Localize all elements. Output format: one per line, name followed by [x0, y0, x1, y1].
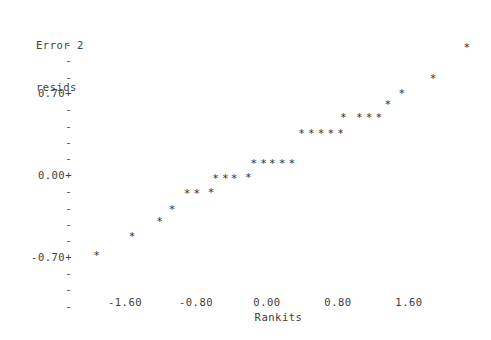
- data-point-marker: *: [193, 189, 200, 198]
- data-point-marker: *: [231, 174, 238, 183]
- data-point-marker: *: [208, 188, 215, 197]
- x-axis-title: Rankits: [0, 311, 491, 323]
- y-axis-tick-mark: -: [0, 220, 72, 228]
- y-axis-tick-mark: -: [0, 73, 72, 81]
- data-point-marker: *: [93, 251, 100, 260]
- minitab-dotplot-chart: Error 2 resids ---0.70+----0.00+-----0.7…: [0, 0, 491, 340]
- data-point-marker: *: [245, 173, 252, 182]
- y-axis-tick-mark: -: [0, 302, 72, 310]
- data-point-marker: *: [129, 232, 136, 241]
- data-point-marker: *: [327, 129, 334, 138]
- x-axis-tick-label: 0.80: [316, 296, 360, 308]
- data-point-marker: *: [184, 189, 191, 198]
- y-axis-tick-mark: -: [0, 122, 72, 130]
- data-point-marker: *: [340, 113, 347, 122]
- data-point-marker: *: [308, 129, 315, 138]
- x-axis-tick-label: 0.00: [245, 296, 289, 308]
- data-point-marker: *: [279, 159, 286, 168]
- x-axis-tick-label: -1.60: [103, 296, 147, 308]
- y-axis-tick-mark: -: [0, 56, 72, 64]
- y-axis-tick-label: -0.70+: [0, 253, 72, 261]
- data-point-marker: *: [375, 113, 382, 122]
- y-axis-tick-mark: -: [0, 269, 72, 277]
- y-axis-tick-mark: -: [0, 187, 72, 195]
- x-axis-line: +---------+---------+---------+---------…: [68, 287, 480, 288]
- data-point-marker: *: [288, 159, 295, 168]
- data-point-marker: *: [429, 74, 436, 83]
- y-axis-tick-mark: -: [0, 40, 72, 48]
- y-axis-tick-mark: -: [0, 138, 72, 146]
- data-point-marker: *: [398, 89, 405, 98]
- y-axis-tick-mark: -: [0, 204, 72, 212]
- x-axis-tick-label: -0.80: [174, 296, 218, 308]
- data-point-marker: *: [260, 159, 267, 168]
- data-point-marker: *: [269, 159, 276, 168]
- y-axis-tick-labels: ---0.70+----0.00+-----0.70+---: [0, 0, 72, 340]
- y-axis-tick-label: 0.00+: [0, 171, 72, 179]
- data-point-marker: *: [156, 217, 163, 226]
- data-point-marker: *: [298, 129, 305, 138]
- data-point-marker: *: [169, 205, 176, 214]
- data-point-marker: *: [337, 129, 344, 138]
- y-axis-tick-mark: -: [0, 285, 72, 293]
- y-axis-tick-mark: -: [0, 154, 72, 162]
- y-axis-tick-label: 0.70+: [0, 89, 72, 97]
- data-point-marker: *: [366, 113, 373, 122]
- data-point-marker: *: [384, 100, 391, 109]
- x-axis-tick-label: 1.60: [387, 296, 431, 308]
- data-point-marker: *: [318, 129, 325, 138]
- data-point-marker: *: [356, 113, 363, 122]
- data-point-marker: *: [463, 43, 470, 52]
- data-point-marker: *: [250, 159, 257, 168]
- data-point-marker: *: [212, 174, 219, 183]
- data-point-marker: *: [222, 174, 229, 183]
- y-axis-tick-mark: -: [0, 236, 72, 244]
- y-axis-tick-mark: -: [0, 105, 72, 113]
